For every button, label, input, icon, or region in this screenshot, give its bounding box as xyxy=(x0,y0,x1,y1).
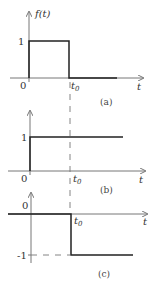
plot-a-level-label: 1 xyxy=(18,36,24,47)
plot-c-neg-step xyxy=(8,214,133,255)
plot-a-origin-label: 0 xyxy=(20,80,26,91)
plot-b-step xyxy=(30,137,123,171)
plot-a-pulse xyxy=(29,41,117,78)
plot-b-x-label: t xyxy=(139,174,144,185)
plot-a-caption: (a) xyxy=(100,97,112,107)
plot-c-t0-label: t0 xyxy=(74,215,83,228)
plot-c-level-label: -1 xyxy=(17,250,27,261)
signal-decomposition-figure: f(t) 1 0 t0 t (a) 1 0 t0 t (b) 0 -1 t0 t… xyxy=(0,0,153,286)
plot-b-t0-label: t0 xyxy=(73,173,82,186)
plot-a: f(t) 1 0 t0 t (a) xyxy=(10,8,143,107)
plot-c: 0 -1 t0 t (c) xyxy=(8,193,148,279)
plot-b-caption: (b) xyxy=(100,185,113,195)
plot-c-origin-label: 0 xyxy=(22,200,28,211)
plot-b-origin-label: 0 xyxy=(21,173,27,184)
plot-c-caption: (c) xyxy=(98,269,110,279)
plot-a-x-label: t xyxy=(137,81,142,92)
plot-b-level-label: 1 xyxy=(21,132,27,143)
plot-c-x-label: t xyxy=(143,216,148,227)
plot-b: 1 0 t0 t (b) xyxy=(8,111,145,195)
plot-a-t0-label: t0 xyxy=(71,80,80,93)
plot-a-y-label: f(t) xyxy=(34,8,51,19)
